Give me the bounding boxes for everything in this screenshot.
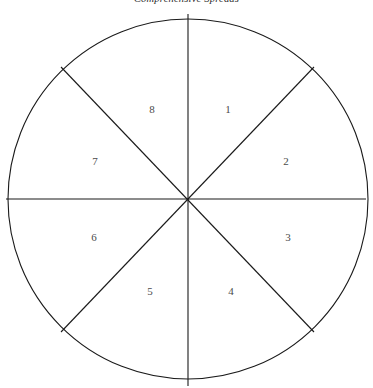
sector-label-2: 2 (283, 155, 289, 167)
sector-label-7: 7 (92, 155, 98, 167)
sector-label-6: 6 (91, 231, 97, 243)
sector-label-3: 3 (285, 231, 291, 243)
sector-label-4: 4 (228, 285, 234, 297)
sector-label-1: 1 (225, 103, 231, 115)
sector-label-5: 5 (147, 285, 153, 297)
spread-wheel-diagram: 1 2 3 4 5 6 7 8 (0, 0, 373, 388)
sector-label-8: 8 (149, 103, 155, 115)
spread-wheel-figure: Comprehensive Spreads 1 2 3 4 5 6 7 8 (0, 0, 373, 388)
sector-divider-group (6, 14, 366, 386)
